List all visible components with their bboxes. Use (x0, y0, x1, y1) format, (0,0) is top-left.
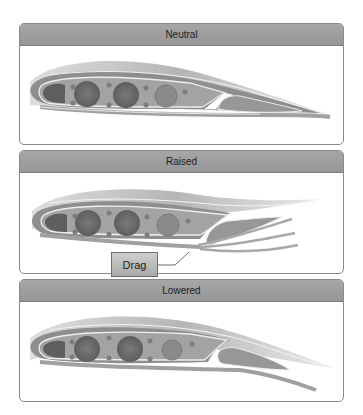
panel-lowered: Lowered (19, 279, 344, 402)
panel-title: Neutral (20, 24, 343, 46)
panel-title: Raised (20, 151, 343, 173)
panel-title: Lowered (20, 280, 343, 302)
airfoil-lowered-illustration (20, 302, 344, 402)
panel-neutral: Neutral (19, 23, 344, 145)
panel-raised: Raised (19, 150, 344, 274)
airfoil-raised-illustration (20, 173, 344, 274)
airfoil-neutral-illustration (20, 45, 344, 145)
drag-callout: Drag (111, 252, 158, 277)
